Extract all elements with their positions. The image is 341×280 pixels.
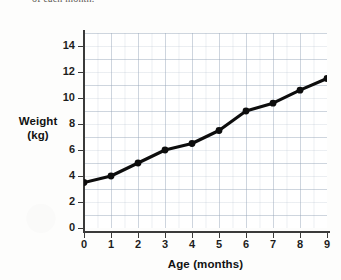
y-axis-title-line: (kg) [6,128,70,142]
y-tick-label: 4 [53,169,75,181]
data-point [216,127,223,134]
x-tick-label: 1 [101,238,121,250]
x-tick-label: 8 [290,238,310,250]
x-tick-label: 7 [263,238,283,250]
y-tick-label: 2 [53,195,75,207]
x-tick-label: 5 [209,238,229,250]
data-point [270,100,277,107]
x-axis-line [83,231,330,233]
x-tick-label: 9 [317,238,337,250]
y-tick-label: 12 [53,65,75,77]
data-point [189,140,196,147]
data-point [108,173,115,180]
data-point [243,108,250,115]
data-point [135,160,142,167]
y-tick-label: 0 [53,221,75,233]
y-axis-title: Weight(kg) [6,114,70,142]
figure-page: of each month. 02468101214 0123456789 We… [0,0,341,280]
x-tick-label: 3 [155,238,175,250]
data-series-weight [84,33,327,228]
line-chart: 02468101214 0123456789 Weight(kg) Age (m… [0,0,341,280]
data-point [162,147,169,154]
series-markers-weight [84,75,327,186]
y-tick-label: 10 [53,91,75,103]
x-axis-title: Age (months) [84,258,327,270]
y-axis-title-line: Weight [6,114,70,128]
x-tick-label: 4 [182,238,202,250]
series-line-weight [84,79,327,183]
data-point [84,179,87,186]
y-tick-label: 6 [53,143,75,155]
x-tick-label: 6 [236,238,256,250]
x-tick-label: 0 [74,238,94,250]
y-tick-mark [78,228,85,229]
data-point [297,87,304,94]
y-tick-label: 14 [53,39,75,51]
x-tick-label: 2 [128,238,148,250]
